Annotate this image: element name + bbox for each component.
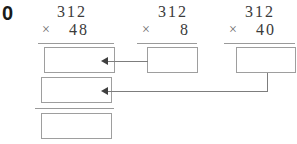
connector-tens-horizontal: [108, 91, 268, 92]
col1-sum-rule: [35, 108, 114, 109]
col1-multiplier: 48: [69, 21, 89, 39]
col3-multiplicand: 312: [245, 3, 275, 21]
col2-multiplier: 8: [180, 21, 190, 39]
col3-multiplication-sign: ×: [229, 22, 237, 38]
connector-ones-arrowhead: [101, 57, 108, 65]
col2-multiplicand: 312: [158, 3, 188, 21]
connector-tens-arrowhead: [101, 87, 108, 95]
col1-operation-rule: [38, 43, 114, 44]
multiplication-worksheet: 0 312 × 48 312 × 8 312 × 40: [0, 0, 297, 144]
problem-number-label: 0: [2, 2, 13, 25]
col3-answer-box-1[interactable]: [236, 47, 296, 73]
col2-operation-rule: [137, 43, 197, 44]
connector-tens-vertical: [267, 73, 268, 92]
connector-ones-line: [108, 61, 148, 62]
col3-multiplier: 40: [256, 21, 276, 39]
col3-operation-rule: [224, 43, 295, 44]
col1-multiplicand: 312: [57, 3, 87, 21]
col1-answer-box-3[interactable]: [41, 113, 112, 139]
col2-answer-box-1[interactable]: [147, 47, 198, 73]
col1-multiplication-sign: ×: [42, 22, 50, 38]
col2-multiplication-sign: ×: [142, 22, 150, 38]
